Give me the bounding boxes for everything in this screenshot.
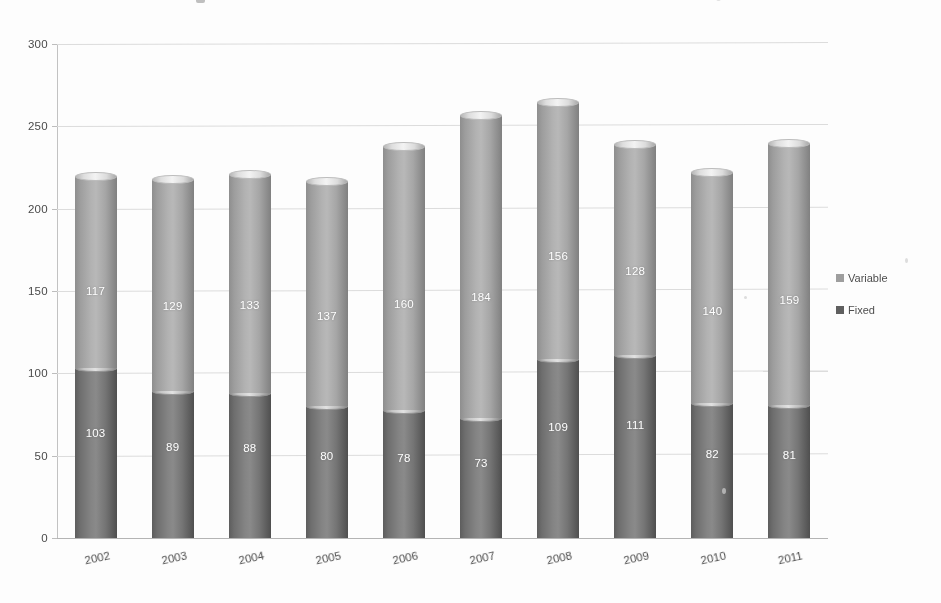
bar-value-label-fixed: 82	[691, 448, 733, 460]
bar-value-label-variable: 156	[537, 250, 579, 262]
x-axis-tick-label: 2003	[160, 549, 188, 566]
gridline-0	[57, 538, 828, 539]
bar-segment-variable[interactable]: 137	[306, 181, 348, 407]
bar-segment-variable[interactable]: 184	[460, 115, 502, 418]
x-axis-tick-label: 2005	[314, 549, 342, 566]
bar-segment-fixed[interactable]: 103	[75, 368, 117, 538]
chart-page: 050100150200250300 103117200289129200388…	[0, 0, 941, 603]
bar-group[interactable]: 891292003	[152, 179, 194, 538]
y-axis-tick-label: 250	[28, 120, 48, 132]
bar-cap-variable	[152, 175, 194, 184]
bar-segment-fixed[interactable]: 80	[306, 406, 348, 538]
bar-value-label-variable: 140	[691, 305, 733, 317]
bar-segment-variable[interactable]: 128	[614, 144, 656, 355]
bar-cap-variable	[537, 98, 579, 107]
plot-box: 050100150200250300 103117200289129200388…	[57, 44, 828, 538]
scan-speckle	[744, 296, 747, 299]
bar-segment-fixed[interactable]: 89	[152, 391, 194, 538]
bar-value-label-variable: 159	[768, 294, 810, 306]
bar-value-label-variable: 117	[75, 285, 117, 297]
bar-segment-fixed[interactable]: 78	[383, 410, 425, 538]
x-axis-tick-label: 2002	[83, 549, 111, 566]
y-axis-tick-mark	[52, 538, 57, 539]
bar-segment-fixed[interactable]: 109	[537, 359, 579, 538]
legend-label: Variable	[848, 272, 888, 284]
bar-value-label-variable: 133	[229, 299, 271, 311]
bar-cap-variable	[691, 168, 733, 177]
bar-cap-variable	[768, 139, 810, 148]
x-axis-tick-label: 2009	[623, 549, 651, 566]
bar-segment-fixed[interactable]: 81	[768, 405, 810, 538]
x-axis-tick-label: 2004	[237, 549, 265, 566]
bar-value-label-fixed: 81	[768, 449, 810, 461]
bar-value-label-variable: 184	[460, 291, 502, 303]
x-axis-tick-label: 2008	[546, 549, 574, 566]
bar-group[interactable]: 731842007	[460, 115, 502, 538]
y-axis-tick-label: 200	[28, 203, 48, 215]
bar-cap-variable	[383, 142, 425, 151]
legend-label: Fixed	[848, 304, 875, 316]
scan-artifact-top	[196, 0, 816, 7]
bar-value-label-fixed: 73	[460, 457, 502, 469]
bar-group[interactable]: 1031172002	[75, 176, 117, 538]
bar-cap-variable	[614, 140, 656, 149]
bar-segment-fixed[interactable]: 82	[691, 403, 733, 538]
chart-legend: VariableFixed	[836, 272, 936, 336]
bar-group[interactable]: 781602006	[383, 146, 425, 538]
bar-segment-variable[interactable]: 129	[152, 179, 194, 391]
ink-speck-icon	[716, 0, 721, 1]
bar-series-container: 1031172002891292003881332004801372005781…	[57, 44, 828, 538]
bar-value-label-fixed: 88	[229, 442, 271, 454]
bar-value-label-variable: 128	[614, 265, 656, 277]
bar-value-label-variable: 129	[152, 300, 194, 312]
x-axis-tick-label: 2010	[700, 549, 728, 566]
bar-segment-variable[interactable]: 133	[229, 174, 271, 393]
bar-group[interactable]: 881332004	[229, 174, 271, 538]
y-axis-tick-label: 50	[35, 450, 48, 462]
legend-item-variable[interactable]: Variable	[836, 272, 936, 284]
bar-segment-fixed[interactable]: 111	[614, 355, 656, 538]
y-axis-tick-label: 100	[28, 367, 48, 379]
bar-segment-variable[interactable]: 159	[768, 143, 810, 405]
bar-group[interactable]: 801372005	[306, 181, 348, 538]
bar-value-label-fixed: 109	[537, 421, 579, 433]
bar-cap-variable	[229, 170, 271, 179]
bar-value-label-fixed: 78	[383, 452, 425, 464]
bar-group[interactable]: 811592011	[768, 143, 810, 538]
y-axis-tick-label: 300	[28, 38, 48, 50]
bar-segment-fixed[interactable]: 73	[460, 418, 502, 538]
bar-value-label-fixed: 103	[75, 427, 117, 439]
x-axis-tick-label: 2006	[391, 549, 419, 566]
bar-group[interactable]: 1091562008	[537, 102, 579, 538]
bar-group[interactable]: 821402010	[691, 172, 733, 538]
legend-swatch-icon	[836, 306, 844, 314]
legend-swatch-icon	[836, 274, 844, 282]
bar-segment-fixed[interactable]: 88	[229, 393, 271, 538]
scan-speckle	[905, 258, 908, 263]
bar-group[interactable]: 1111282009	[614, 144, 656, 538]
bar-value-label-variable: 137	[306, 310, 348, 322]
ink-blot-icon	[196, 0, 205, 3]
bar-cap-variable	[306, 177, 348, 186]
bar-value-label-fixed: 80	[306, 450, 348, 462]
bar-value-label-variable: 160	[383, 298, 425, 310]
y-axis-tick-label: 150	[28, 285, 48, 297]
chart-plot-area: 050100150200250300 103117200289129200388…	[57, 44, 828, 538]
bar-value-label-fixed: 111	[614, 419, 656, 431]
bar-cap-variable	[460, 111, 502, 120]
bar-cap-variable	[75, 172, 117, 181]
bar-segment-variable[interactable]: 140	[691, 172, 733, 403]
bar-value-label-fixed: 89	[152, 441, 194, 453]
x-axis-tick-label: 2011	[777, 549, 804, 566]
x-axis-tick-label: 2007	[469, 549, 497, 566]
scan-speckle	[722, 488, 726, 494]
bar-segment-variable[interactable]: 160	[383, 146, 425, 409]
bar-segment-variable[interactable]: 156	[537, 102, 579, 359]
bar-segment-variable[interactable]: 117	[75, 176, 117, 369]
legend-item-fixed[interactable]: Fixed	[836, 304, 936, 316]
y-axis-tick-label: 0	[41, 532, 48, 544]
